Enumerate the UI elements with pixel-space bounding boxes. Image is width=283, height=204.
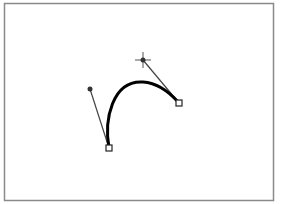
control-point-dot[interactable] (88, 87, 93, 92)
anchor-point-start[interactable] (106, 145, 112, 151)
canvas-frame (5, 4, 274, 201)
anchor-point-end[interactable] (176, 100, 182, 106)
bezier-canvas (0, 0, 283, 204)
